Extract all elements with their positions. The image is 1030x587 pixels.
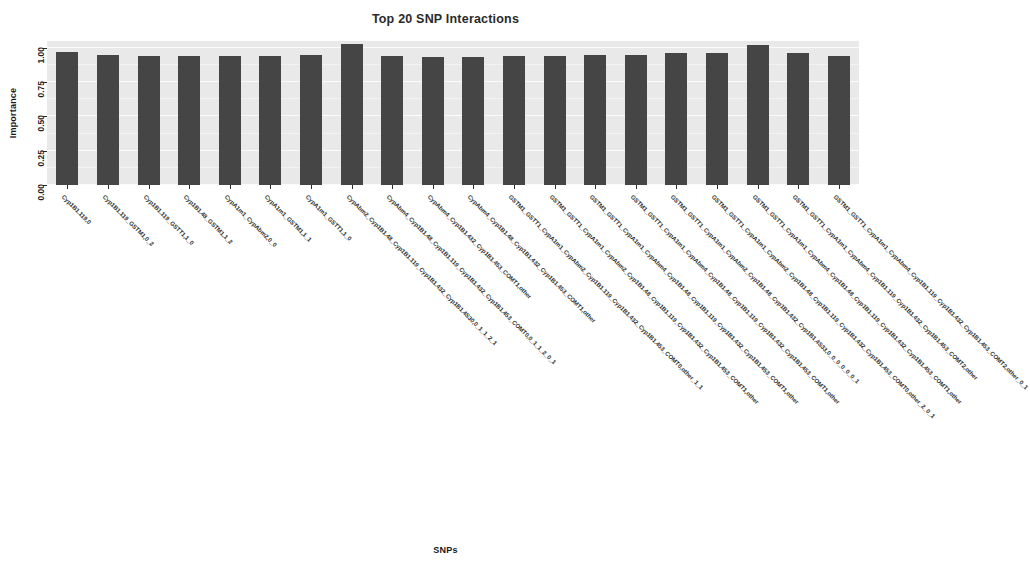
x-axis-tick-labels: Cyp1B1.119,0Cyp1B1.119_GSTM1,0_2Cyp1B1.1… xyxy=(0,188,891,528)
x-tick-label: Cyp1B1.119,0 xyxy=(61,193,93,225)
x-tick-label: GSTM1_GSTT1_CypA1m1_CypAbm4_Cyp1B1.119_C… xyxy=(832,193,1029,390)
x-axis-title: SNPs xyxy=(0,545,891,555)
bar[interactable] xyxy=(381,56,403,185)
bar[interactable] xyxy=(259,56,281,185)
y-tick-label: 0.25 xyxy=(36,150,46,167)
x-tick-label: CypAbm2_Cyp1B1.48_Cyp1B1.119_Cyp1B1.432_… xyxy=(345,193,498,346)
bar[interactable] xyxy=(138,56,160,185)
bar[interactable] xyxy=(828,56,850,185)
y-tick-label: 0.50 xyxy=(36,115,46,132)
bar[interactable] xyxy=(422,57,444,185)
bar[interactable] xyxy=(747,45,769,185)
bar[interactable] xyxy=(462,57,484,185)
bar[interactable] xyxy=(300,55,322,185)
bar[interactable] xyxy=(544,56,566,185)
bar[interactable] xyxy=(665,53,687,185)
x-tick-label: GSTM1_GSTT1_CypA1m1_CypAbm4_Cyp1B1.48_Cy… xyxy=(751,193,963,405)
bar[interactable] xyxy=(706,53,728,185)
x-tick-label: GSTM1_GSTT1_CypA1m1_CypAbm4_Cyp1B1.119_C… xyxy=(792,193,980,381)
y-axis: 0.000.250.500.751.00 xyxy=(0,41,47,185)
bar[interactable] xyxy=(97,55,119,185)
bar[interactable] xyxy=(219,56,241,185)
x-tick-label: GSTM1_GSTT1_CypA1m1_CypAbm2_Cyp1B1.48_Cy… xyxy=(548,193,760,405)
bar[interactable] xyxy=(584,55,606,185)
bar-series xyxy=(47,41,859,185)
y-tick-label: 1.00 xyxy=(36,47,46,64)
x-tick-label: GSTM1_GSTT1_CypA1m1_CypAbm4_Cyp1B1.48_Cy… xyxy=(629,193,841,405)
bar[interactable] xyxy=(787,53,809,185)
x-tick-label: CypA1m1_GSTT1,1_0 xyxy=(304,193,353,242)
bar[interactable] xyxy=(341,44,363,185)
x-tick-label: GSTM1_GSTT1_CypA1m1_CypAbm4_Cyp1B1.48_Cy… xyxy=(589,193,801,405)
plot-panel xyxy=(47,41,859,185)
chart-title: Top 20 SNP Interactions xyxy=(0,12,891,26)
x-tick-label: GSTM1_GSTT1_CypA1m1_CypAbm2_Cyp1B1.48_Cy… xyxy=(670,193,862,385)
x-tick-label: GSTM1_GSTT1_CypA1m1_CypAbm2_Cyp1B1.119_C… xyxy=(507,193,704,390)
y-tick-label: 0.75 xyxy=(36,81,46,98)
bar[interactable] xyxy=(625,55,647,185)
bar[interactable] xyxy=(503,56,525,185)
bar[interactable] xyxy=(178,56,200,185)
bar[interactable] xyxy=(56,52,78,185)
